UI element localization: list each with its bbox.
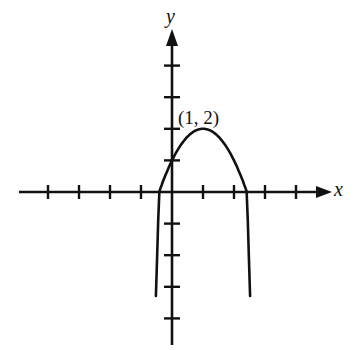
parabola-chart: x y (1, 2) (0, 0, 358, 350)
y-axis-label: y (164, 5, 175, 28)
x-axis-arrow-icon (316, 186, 332, 198)
y-axis-arrow-icon (166, 29, 178, 46)
axes (19, 29, 332, 345)
parabola-curve (156, 129, 250, 296)
vertex-label: (1, 2) (178, 107, 219, 129)
x-axis-label: x (333, 178, 343, 200)
